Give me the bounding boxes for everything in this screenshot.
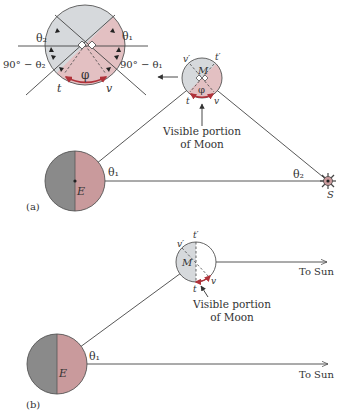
earth-b: E: [27, 334, 87, 394]
moon-a-v-label: v: [214, 96, 219, 106]
inset-ninety-minus-theta1: 90° − θ₁: [120, 59, 163, 70]
earth-b-label: E: [58, 367, 67, 380]
inset-theta2-label: θ₂: [36, 32, 47, 45]
inset-t-label: t: [57, 82, 62, 95]
visible-portion-label-b-line2: of Moon: [210, 311, 254, 323]
moon-phase-diagram: θ₂ θ₁ 90° − θ₂ 90° − θ₁ φ t v M φ v′: [0, 0, 346, 420]
panel-b-label: (b): [26, 399, 40, 410]
visible-portion-label-a-line1: Visible portion: [162, 125, 241, 137]
theta1-label-a: θ₁: [108, 166, 119, 179]
moon-a-t-label: t: [186, 96, 190, 106]
sun-label: S: [327, 189, 334, 200]
to-sun-label-1: To Sun: [299, 266, 334, 277]
panel-a-label: (a): [26, 201, 40, 212]
moon-b-t-label: t: [193, 284, 197, 294]
inset-moon-detail: θ₂ θ₁ 90° − θ₂ 90° − θ₁ φ t v: [3, 0, 163, 100]
visible-portion-label-a-line2: of Moon: [180, 138, 224, 150]
moon-b-vprime-label: v′: [177, 239, 184, 249]
sun-icon: S: [320, 173, 336, 200]
moon-a: M φ v′ t′ t v: [178, 52, 226, 106]
moon-b: M v′ t′ t v: [176, 230, 216, 294]
moon-b-v-label: v: [211, 276, 216, 286]
to-sun-label-2: To Sun: [299, 369, 334, 380]
visible-portion-label-b-line1: Visible portion: [192, 298, 271, 310]
panel-b: M v′ t′ t v Visible portion of Moon To S…: [26, 230, 334, 410]
moon-a-vprime-label: v′: [183, 54, 190, 64]
earth-a: E: [45, 151, 105, 211]
moon-b-tprime-label: t′: [193, 230, 199, 240]
moon-b-M-label: M: [181, 257, 193, 268]
inset-ninety-minus-theta2: 90° − θ₂: [3, 59, 46, 70]
inset-phi-label: φ: [81, 68, 89, 82]
moon-a-M-label: M: [197, 65, 209, 76]
theta1-label-b: θ₁: [89, 350, 100, 363]
inset-v-label: v: [106, 82, 113, 95]
inset-theta1-label: θ₁: [122, 30, 133, 43]
earth-a-label: E: [76, 185, 85, 198]
visible-portion-arrow-b: [201, 286, 208, 297]
moon-a-phi-label: φ: [198, 84, 205, 95]
theta2-label-a: θ₂: [293, 168, 304, 181]
moon-a-tprime-label: t′: [215, 52, 221, 62]
